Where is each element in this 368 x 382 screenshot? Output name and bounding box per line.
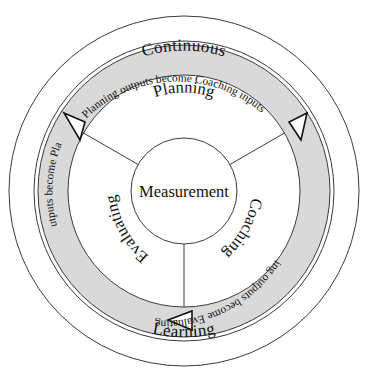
cycle-diagram-root: Continuous Learning Planning outputs bec… — [0, 0, 368, 382]
continuous-learning-cycle-diagram: Continuous Learning Planning outputs bec… — [0, 0, 368, 382]
center-label-measurement: Measurement — [139, 182, 229, 201]
